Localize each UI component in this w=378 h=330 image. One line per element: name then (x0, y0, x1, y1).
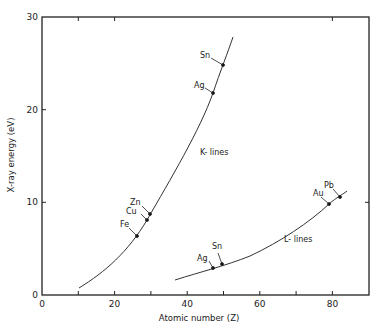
x-tick-label: 0 (39, 299, 45, 309)
k-lines-curve (79, 37, 233, 288)
k-lines-annotation: K- lines (200, 148, 228, 157)
point-label-cu: Cu (126, 207, 137, 216)
point-label-sn-l: Sn (212, 242, 222, 251)
y-tick-label: 30 (0, 12, 38, 22)
point-label-zn: Zn (130, 198, 141, 207)
x-tick-label: 20 (109, 299, 120, 309)
y-tick-label: 0 (0, 290, 38, 300)
x-axis-title: Atomic number (Z) (0, 313, 378, 323)
x-tick-label: 80 (327, 299, 338, 309)
point-label-pb: Pb (324, 181, 334, 190)
point-label-fe: Fe (120, 220, 129, 229)
point-label-ag-k: Ag (194, 81, 205, 90)
x-tick-label: 40 (181, 299, 192, 309)
l-lines-curve (175, 191, 347, 280)
point-label-ag-l: Ag (197, 254, 208, 263)
point-label-au: Au (313, 189, 324, 198)
y-axis-title: X-ray energy (eV) (6, 100, 16, 210)
l-lines-annotation: L- lines (284, 235, 312, 244)
chart-plot-area (0, 0, 378, 330)
point-label-sn-k: Sn (200, 51, 210, 60)
x-tick-label: 60 (254, 299, 265, 309)
